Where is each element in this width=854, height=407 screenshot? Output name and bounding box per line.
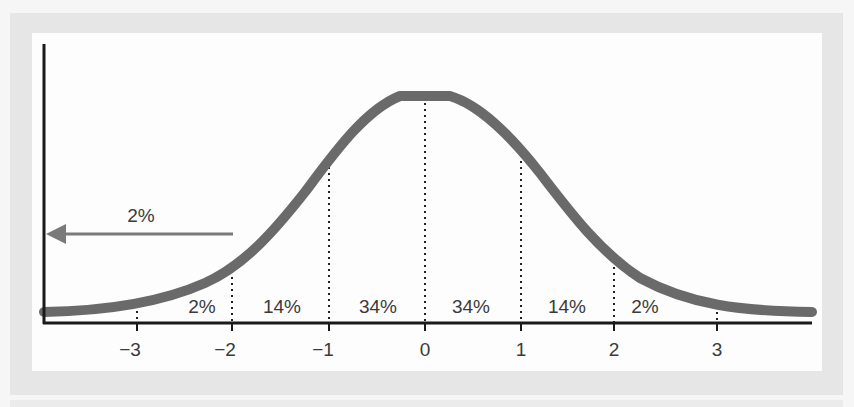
tail-arrow (46, 224, 233, 244)
region-label-0-1: 34% (452, 296, 490, 317)
region-label-neg1-0: 34% (359, 296, 397, 317)
tick-label-0: 0 (420, 339, 431, 360)
tail-arrow-label: 2% (127, 205, 155, 226)
sd-guide-lines (137, 97, 717, 323)
tick-label-2: 2 (609, 339, 620, 360)
bell-curve-chart: −3 −2 −1 0 1 2 3 2% 14% 34% 34% 14% 2% 2… (0, 0, 854, 407)
bell-curve (44, 96, 812, 312)
tick-label-3: 3 (712, 339, 723, 360)
page: −3 −2 −1 0 1 2 3 2% 14% 34% 34% 14% 2% 2… (0, 0, 854, 407)
region-label-neg3-neg2: 2% (188, 296, 216, 317)
region-label-neg2-neg1: 14% (263, 296, 301, 317)
region-label-2-3: 2% (631, 296, 659, 317)
tick-label-1: 1 (516, 339, 527, 360)
tick-label-neg1: −1 (312, 339, 334, 360)
tick-label-neg3: −3 (119, 339, 141, 360)
arrow-left-icon (46, 224, 66, 244)
tick-label-neg2: −2 (214, 339, 236, 360)
region-label-1-2: 14% (548, 296, 586, 317)
